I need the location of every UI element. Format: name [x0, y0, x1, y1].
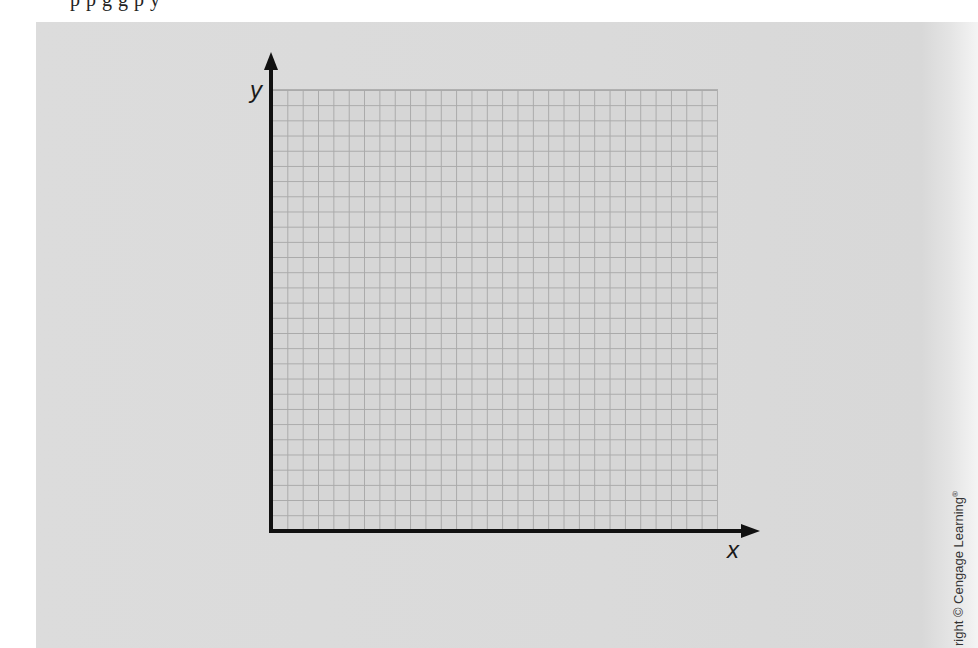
copyright-text: right © Cengage Learning: [951, 497, 966, 646]
x-axis: [269, 524, 760, 538]
copyright-credit: right © Cengage Learning®: [951, 491, 966, 646]
axes: [0, 0, 978, 648]
y-axis: [264, 52, 278, 532]
registered-mark: ®: [951, 491, 960, 497]
y-axis-label: y: [250, 76, 262, 104]
x-axis-label: x: [727, 536, 739, 564]
y-axis-arrowhead-icon: [264, 52, 278, 70]
x-axis-arrowhead-icon: [741, 524, 760, 538]
